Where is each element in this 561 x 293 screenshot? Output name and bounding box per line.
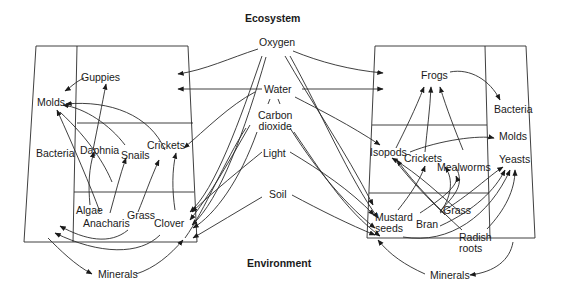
factor-carbon-dioxide: Carbon dioxide [258,110,292,132]
factor-carbon-line2: dioxide [258,121,292,132]
terrarium-isopods: Isopods [370,147,407,158]
terrarium-grass: Grass [443,205,471,216]
aquarium-minerals: Minerals [98,269,138,280]
aquarium-clover: Clover [154,218,184,229]
aquarium-daphnia: Daphnia [80,145,119,156]
terrarium-yeasts: Yeasts [499,154,530,165]
factor-soil: Soil [269,189,287,200]
factor-water: Water [264,84,292,95]
aquarium-snails: Snails [121,150,150,161]
terrarium-minerals: Minerals [430,270,470,281]
terrarium-mustard-line2: seeds [375,223,413,234]
terrarium-bacteria: Bacteria [494,104,533,115]
ecosystem-title: Ecosystem [245,13,300,24]
terrarium-radish-line2: roots [459,243,492,254]
terrarium-mealworms: Mealworms [437,162,491,173]
aquarium-algae: Algae [76,205,103,216]
aquarium-grass: Grass [127,210,155,221]
environment-title: Environment [247,258,311,269]
terrarium-mustard-seeds: Mustard seeds [375,212,413,234]
aquarium-anacharis: Anacharis [83,218,130,229]
aquarium-bacteria: Bacteria [36,148,75,159]
terrarium-bran: Bran [416,219,438,230]
aquarium-crickets: Crickets [147,140,185,151]
factor-oxygen: Oxygen [259,37,295,48]
factor-light: Light [263,148,286,159]
terrarium-frogs: Frogs [421,70,448,81]
terrarium-molds: Molds [499,131,527,142]
aquarium-guppies: Guppies [81,72,120,83]
terrarium-radish-roots: Radish roots [459,232,492,254]
aquarium-molds: Molds [37,97,65,108]
